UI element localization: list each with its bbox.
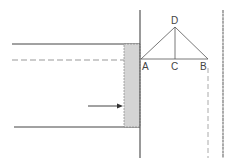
segment-bd xyxy=(175,27,208,59)
diagram-canvas: D A C B xyxy=(0,0,237,165)
label-b: B xyxy=(200,61,207,72)
label-c: C xyxy=(171,61,178,72)
label-a: A xyxy=(142,61,149,72)
shaded-block xyxy=(124,44,140,127)
segment-ad xyxy=(141,27,175,59)
arrow-head-icon xyxy=(117,104,123,109)
label-d: D xyxy=(171,15,178,26)
